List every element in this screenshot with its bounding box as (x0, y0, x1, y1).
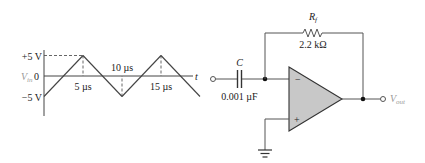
resistor-name: Rf (308, 11, 318, 24)
capacitor-name: C (236, 57, 243, 68)
resistor-value: 2.2 kΩ (299, 39, 326, 50)
time-label-5us: 5 µs (74, 81, 91, 92)
input-terminal (211, 77, 216, 82)
output-terminal (381, 97, 386, 102)
output-node-junction (361, 97, 366, 102)
time-label-10us: 10 µs (111, 62, 133, 73)
time-label-15us: 15 µs (150, 81, 172, 92)
vin-axis-label: Vin (21, 71, 33, 84)
opamp-noninverting-sign: + (294, 114, 300, 125)
opamp-inverting-sign: − (295, 74, 301, 85)
input-waveform-graph: +5 V 0 −5 V Vin 5 µs 10 µs 15 µs t (21, 50, 200, 116)
y-tick-label-zero: 0 (34, 71, 39, 82)
y-tick-label-pos5: +5 V (22, 51, 43, 62)
ground-wire (265, 119, 289, 150)
vout-label: Vout (390, 93, 406, 106)
ground-icon (258, 150, 272, 157)
differentiator-circuit: C 0.001 µF Rf 2.2 kΩ − + Vout (211, 11, 407, 157)
y-tick-label-neg5: −5 V (22, 92, 43, 103)
circuit-diagram: +5 V 0 −5 V Vin 5 µs 10 µs 15 µs t C 0.0… (0, 0, 425, 163)
capacitor-symbol (238, 70, 242, 88)
t-axis-label: t (195, 71, 198, 82)
capacitor-value: 0.001 µF (221, 91, 258, 102)
feedback-wire-right (322, 33, 363, 99)
resistor-symbol (303, 29, 322, 37)
